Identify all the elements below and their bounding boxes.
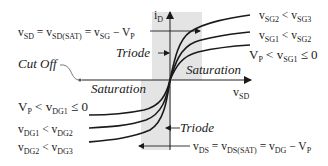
eq-bottom-op: − — [286, 140, 298, 152]
eq-bottom-sub: P — [307, 146, 311, 155]
cl-sub: DG3 — [57, 147, 73, 156]
eq-top-sub: SD(SAT) — [52, 32, 82, 41]
eq-bottom-sub: DG — [275, 146, 287, 155]
cl-op: < — [279, 29, 291, 41]
cl-op: < — [279, 9, 291, 21]
cl-sub: DG1 — [52, 107, 68, 116]
triode-label-bottom: Triode — [180, 122, 214, 134]
curve-label-dg2-dg3: vDG2 < vDG3 — [18, 141, 73, 153]
saturation-label-right: Saturation — [186, 64, 241, 76]
vsd-sat-equation: vSD = vSD(SAT) = vSG − VP — [18, 26, 135, 38]
cut-off-pointer — [60, 65, 80, 80]
cl-sub: SG1 — [283, 55, 297, 64]
vds-sat-equation: vDS = vDS(SAT) = vDG − VP — [193, 140, 311, 152]
cl-op: < — [39, 141, 51, 153]
eq-bottom-op: = — [209, 140, 221, 152]
cl-term: V — [249, 47, 258, 62]
eq-bottom-op: = — [257, 140, 269, 152]
id-axis-label-sub: D — [157, 15, 163, 24]
eq-top-op: = — [82, 26, 94, 38]
eq-top-sub: SG — [100, 32, 110, 41]
cl-sub: SG2 — [297, 35, 311, 44]
eq-bottom-sub: DS — [199, 146, 209, 155]
vsd-axis-label-sub: SD — [239, 92, 249, 101]
vsd-axis-label: vSD — [233, 86, 249, 98]
cl-tail: ≤ 0 — [68, 99, 88, 114]
saturation-label-left: Saturation — [91, 83, 146, 95]
cl-sub: SG3 — [297, 15, 311, 24]
eq-bottom-sub: DS(SAT) — [227, 146, 257, 155]
curve-label-vp-sg1: VP < vSG1 ≤ 0 — [249, 49, 318, 61]
cl-tail: ≤ 0 — [297, 47, 317, 62]
cl-term: V — [18, 99, 27, 114]
eq-top-sub: P — [130, 32, 134, 41]
cl-sub: DG2 — [57, 129, 73, 138]
eq-top-op: = — [34, 26, 46, 38]
eq-bottom-term: V — [298, 140, 306, 152]
eq-top-sub: SD — [24, 32, 34, 41]
id-axis-label: iD — [154, 9, 163, 21]
cl-op: < — [32, 99, 46, 114]
curve-label-vp-dg1: VP < vDG1 ≤ 0 — [18, 101, 88, 113]
cl-sub: SG1 — [265, 35, 279, 44]
cl-op: < — [263, 47, 277, 62]
id-vsd-characteristic-diagram: iD vSD vSD = vSD(SAT) = vSG − VP vDS = v… — [0, 0, 328, 166]
curve-label-sg1-sg2: vSG1 < vSG2 — [259, 29, 311, 41]
curve-label-dg1-dg2: vDG1 < vDG2 — [18, 123, 73, 135]
cl-sub: DG2 — [24, 147, 40, 156]
cl-sub: DG1 — [24, 129, 40, 138]
eq-top-op: − — [110, 26, 122, 38]
curve-label-sg2-sg3: vSG2 < vSG3 — [259, 9, 311, 21]
cl-sub: SG2 — [265, 15, 279, 24]
triode-label-top: Triode — [116, 47, 150, 59]
cut-off-label: Cut Off — [18, 58, 57, 70]
cl-op: < — [39, 123, 51, 135]
